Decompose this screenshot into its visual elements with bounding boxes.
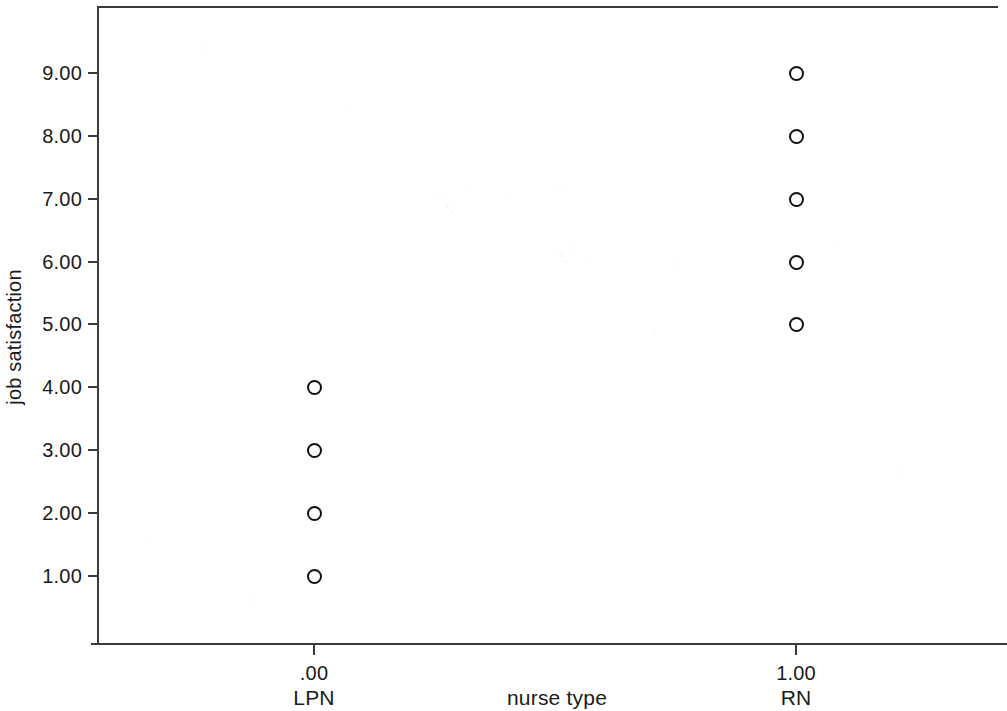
- y-axis-tick-label: 8.00: [42, 126, 82, 146]
- scatter-plot: 9.008.007.006.005.004.003.002.001.00 .00…: [0, 0, 1007, 711]
- y-axis-tick: [88, 72, 98, 74]
- x-axis-tick: [795, 645, 797, 655]
- data-point: [307, 569, 322, 584]
- y-axis-tick: [88, 135, 98, 137]
- data-point: [307, 380, 322, 395]
- data-point: [789, 317, 804, 332]
- y-axis-tick: [88, 449, 98, 451]
- data-point: [789, 192, 804, 207]
- x-axis-category-label: LPN: [214, 685, 414, 711]
- y-axis-tick: [88, 323, 98, 325]
- y-axis-title: job satisfaction: [3, 237, 25, 437]
- x-axis-line: [91, 643, 1007, 645]
- y-axis-line: [97, 6, 99, 645]
- y-axis-tick-label: 3.00: [42, 440, 82, 460]
- data-point: [789, 255, 804, 270]
- y-axis-tick-label: 9.00: [42, 63, 82, 83]
- y-axis-tick: [88, 198, 98, 200]
- data-point: [307, 443, 322, 458]
- y-axis-tick: [88, 261, 98, 263]
- plot-frame-top-line: [97, 6, 998, 8]
- y-axis-tick: [88, 386, 98, 388]
- y-axis-tick: [88, 575, 98, 577]
- y-axis-tick-label: 5.00: [42, 314, 82, 334]
- data-point: [789, 129, 804, 144]
- x-axis-tick: [313, 645, 315, 655]
- y-axis-tick-label: 7.00: [42, 189, 82, 209]
- x-axis-label-group: 1.00RN: [696, 661, 896, 711]
- x-axis-tick-label: .00: [214, 661, 414, 685]
- x-axis-category-label: RN: [696, 685, 896, 711]
- y-axis-tick-label: 2.00: [42, 503, 82, 523]
- x-axis-tick-label: 1.00: [696, 661, 896, 685]
- y-axis-tick-label: 4.00: [42, 377, 82, 397]
- x-axis-label-group: .00LPN: [214, 661, 414, 711]
- y-axis-tick: [88, 512, 98, 514]
- y-axis-tick-label: 1.00: [42, 566, 82, 586]
- x-axis-title: nurse type: [457, 686, 657, 710]
- paper-texture: [0, 0, 1007, 711]
- y-axis-tick-label: 6.00: [42, 252, 82, 272]
- data-point: [307, 506, 322, 521]
- data-point: [789, 66, 804, 81]
